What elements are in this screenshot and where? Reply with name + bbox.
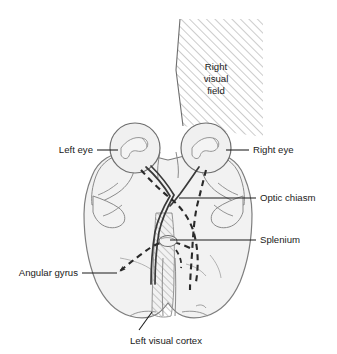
right-visual-field-label-line2: visual (204, 73, 229, 84)
splenium-label: Splenium (260, 234, 300, 245)
right-eye-label: Right eye (253, 144, 294, 155)
angular-gyrus-label: Angular gyrus (19, 267, 78, 278)
left-visual-cortex-label: Left visual cortex (130, 335, 202, 346)
left-eye-group (110, 123, 160, 173)
right-visual-field-label-line1: Right (205, 61, 228, 72)
optic-chiasm-label: Optic chiasm (260, 192, 315, 203)
left-eye-label: Left eye (59, 144, 93, 155)
right-visual-field-label-line3: field (207, 85, 225, 96)
diagram-canvas: Right visual field (0, 0, 337, 354)
splenium-structure (159, 236, 177, 247)
visual-pathway-diagram: Right visual field (0, 0, 337, 354)
splenium-body (159, 236, 177, 247)
right-eye-group (181, 123, 231, 173)
